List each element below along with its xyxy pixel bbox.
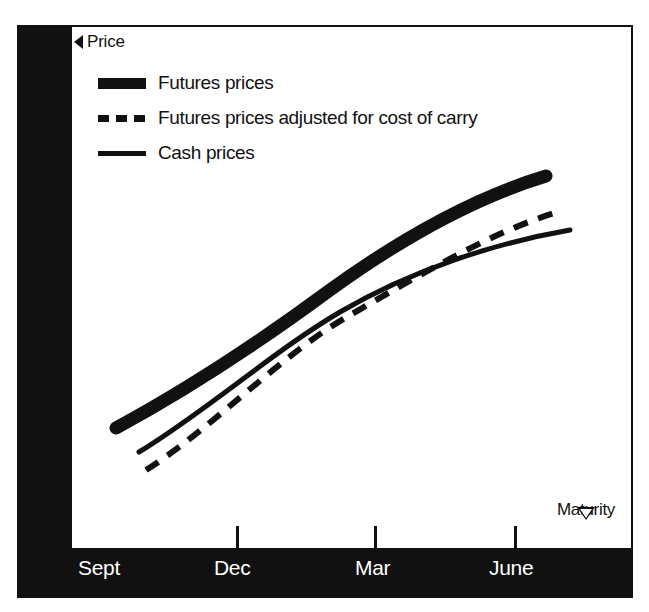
x-axis-tick-june bbox=[514, 526, 517, 548]
x-axis-tick-dec bbox=[236, 526, 239, 548]
legend-key-thick-bar bbox=[96, 72, 148, 94]
thick-line-swatch-icon bbox=[98, 78, 146, 89]
left-triangle-icon bbox=[74, 35, 83, 49]
price-axis-caption: Price bbox=[74, 32, 125, 52]
price-axis-caption-label: Price bbox=[87, 32, 125, 52]
legend-key-thin-line bbox=[96, 142, 148, 164]
x-axis-label-sept: Sept bbox=[78, 556, 120, 580]
x-axis-tick-mar bbox=[374, 526, 377, 548]
x-axis-label-june: June bbox=[489, 556, 533, 580]
legend-label-futures-adjusted: Futures prices adjusted for cost of carr… bbox=[158, 107, 477, 129]
chart-legend: Futures prices Futures prices adjusted f… bbox=[96, 72, 477, 164]
legend-item-futures-prices: Futures prices bbox=[96, 72, 477, 94]
legend-item-cash-prices: Cash prices bbox=[96, 142, 477, 164]
y-axis-band bbox=[17, 25, 72, 548]
legend-label-cash-prices: Cash prices bbox=[158, 142, 254, 164]
x-axis-label-dec: Dec bbox=[214, 556, 250, 580]
legend-item-futures-adjusted: Futures prices adjusted for cost of carr… bbox=[96, 107, 477, 129]
thin-line-swatch-icon bbox=[98, 151, 146, 156]
dashed-line-swatch-icon bbox=[98, 115, 146, 122]
legend-label-futures-prices: Futures prices bbox=[158, 72, 273, 94]
maturity-annotation: Maturity bbox=[546, 500, 626, 538]
down-triangle-icon bbox=[577, 507, 595, 537]
x-axis-label-mar: Mar bbox=[355, 556, 390, 580]
legend-key-dashed-line bbox=[96, 107, 148, 129]
chart-figure: Price Futures prices Futures prices adju… bbox=[0, 0, 649, 612]
